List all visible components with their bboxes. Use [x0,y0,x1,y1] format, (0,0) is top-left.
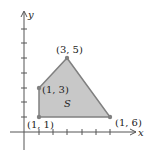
x-axis-label: x [138,127,144,138]
vertex-point-4 [108,115,112,119]
diagram-canvas: y x (1, 1) (1, 3) (3, 5) (1, 6) S [0,0,148,153]
vertex-label-2: (1, 3) [42,84,69,95]
vertex-label-3: (3, 5) [56,44,83,55]
vertex-point-2 [37,86,41,90]
y-axis-label: y [27,9,34,20]
vertex-label-4: (1, 6) [115,117,142,128]
region-label: S [64,98,71,109]
vertex-label-1: (1, 1) [27,119,54,130]
vertex-point-3 [65,56,69,60]
